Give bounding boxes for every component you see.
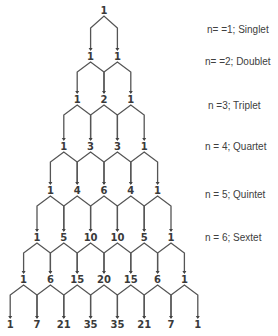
split-connector	[64, 105, 91, 140]
split-connector	[104, 62, 131, 93]
split-connector	[131, 152, 158, 184]
triangle-number: 1	[101, 5, 108, 16]
split-connector	[171, 285, 198, 318]
split-connector	[131, 243, 158, 273]
triangle-number: 10	[84, 232, 98, 243]
triangle-number: 20	[97, 274, 111, 285]
triangle-number: 6	[101, 185, 108, 196]
triangle-number: 1	[34, 232, 41, 243]
multiplicity-label: n= =1; Singlet	[207, 24, 269, 35]
multiplicity-label: n= =2; Doublet	[205, 56, 271, 67]
multiplicity-label: n = 5; Quintet	[205, 189, 265, 200]
split-connector	[77, 62, 104, 93]
triangle-number: 7	[34, 319, 41, 330]
split-connector	[104, 243, 131, 273]
triangle-number: 21	[57, 319, 71, 330]
triangle-number: 1	[74, 94, 81, 105]
triangle-number: 3	[87, 141, 94, 152]
split-connector	[117, 105, 144, 140]
split-connector	[37, 285, 64, 318]
triangle-number: 5	[141, 232, 148, 243]
triangle-number: 6	[47, 274, 54, 285]
triangle-number: 3	[114, 141, 121, 152]
split-connector	[64, 196, 91, 231]
split-connector	[117, 196, 144, 231]
split-connector	[91, 16, 118, 50]
split-connector	[64, 285, 91, 318]
split-connector	[50, 152, 77, 184]
split-connector	[158, 243, 185, 273]
triangle-number: 10	[110, 232, 124, 243]
split-connector	[77, 243, 104, 273]
triangle-number: 35	[84, 319, 98, 330]
triangle-number: 1	[87, 51, 94, 62]
multiplicity-label: n =3; Triplet	[208, 100, 261, 111]
triangle-number: 21	[137, 319, 151, 330]
multiplicity-label: n = 6; Sextet	[205, 232, 261, 243]
triangle-number: 7	[168, 319, 175, 330]
split-connector	[77, 152, 104, 184]
triangle-number: 15	[124, 274, 138, 285]
triangle-number: 1	[47, 185, 54, 196]
triangle-number: 2	[101, 94, 108, 105]
split-connector	[117, 285, 144, 318]
split-connector	[37, 196, 64, 231]
triangle-number: 15	[70, 274, 84, 285]
split-connector	[144, 285, 171, 318]
triangle-number: 1	[7, 319, 14, 330]
split-connector	[91, 105, 118, 140]
split-connector	[50, 243, 77, 273]
triangle-number: 1	[168, 232, 175, 243]
pascal-triangle-diagram: 1111211331146411510105116152015611721353…	[0, 0, 278, 336]
triangle-number: 1	[114, 51, 121, 62]
triangle-number: 1	[154, 185, 161, 196]
split-connector	[144, 196, 171, 231]
triangle-number: 1	[194, 319, 201, 330]
split-connector	[91, 196, 118, 231]
multiplicity-label: n = 4; Quartet	[205, 141, 266, 152]
split-connector	[10, 285, 37, 318]
split-connector	[91, 285, 118, 318]
triangle-number: 4	[74, 185, 81, 196]
split-connector	[104, 152, 131, 184]
split-connector	[24, 243, 51, 273]
triangle-number: 6	[154, 274, 161, 285]
triangle-number: 5	[60, 232, 67, 243]
triangle-number: 1	[181, 274, 188, 285]
triangle-number: 35	[110, 319, 124, 330]
triangle-number: 1	[127, 94, 134, 105]
triangle-number: 1	[141, 141, 148, 152]
triangle-number: 1	[60, 141, 67, 152]
triangle-number: 4	[127, 185, 134, 196]
triangle-number: 1	[20, 274, 27, 285]
